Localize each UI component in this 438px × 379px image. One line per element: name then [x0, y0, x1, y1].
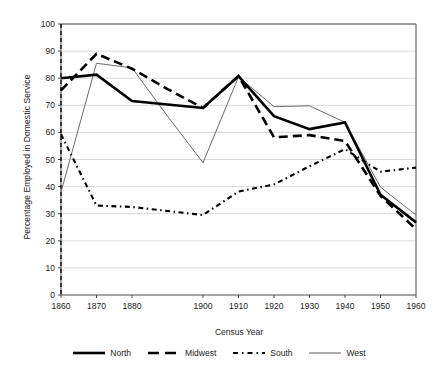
y-tick-label: 100: [29, 20, 55, 28]
series-line-midwest: [61, 54, 416, 229]
y-tick-label: 70: [29, 101, 55, 109]
y-tick-label: 20: [29, 237, 55, 245]
y-tick-label: 30: [29, 210, 55, 218]
legend-item-south[interactable]: South: [232, 348, 292, 358]
legend-label-midwest: Midwest: [185, 348, 216, 358]
legend-item-midwest[interactable]: Midwest: [147, 348, 216, 358]
x-tick-label: 1880: [112, 301, 152, 311]
legend-label-north: North: [110, 348, 131, 358]
x-tick-label: 1900: [183, 301, 223, 311]
x-tick-label: 1860: [41, 301, 81, 311]
y-tick-label: 40: [29, 183, 55, 191]
x-tick-label: 1870: [77, 301, 117, 311]
legend-swatch-midwest: [147, 348, 181, 358]
y-tick-label: 0: [29, 291, 55, 299]
series-line-west: [61, 63, 416, 215]
y-tick-label: 10: [29, 264, 55, 272]
x-tick-label: 1930: [290, 301, 330, 311]
legend-item-west[interactable]: West: [308, 348, 365, 358]
y-tick-label: 90: [29, 47, 55, 55]
legend-swatch-north: [72, 348, 106, 358]
series-line-north: [61, 75, 416, 223]
y-tick-label: 60: [29, 128, 55, 136]
legend-label-south: South: [270, 348, 292, 358]
legend-label-west: West: [346, 348, 365, 358]
chart-figure: Percentage Employed in Domestic Service …: [0, 0, 438, 379]
legend-swatch-south: [232, 348, 266, 358]
y-tick-label: 80: [29, 74, 55, 82]
legend-swatch-west: [308, 348, 342, 358]
x-axis-title: Census Year: [61, 327, 417, 337]
x-tick-label: 1940: [325, 301, 365, 311]
y-tick-label: 50: [29, 156, 55, 164]
legend-item-north[interactable]: North: [72, 348, 131, 358]
chart-legend: North Midwest South West: [0, 348, 438, 358]
x-tick-label: 1960: [396, 301, 436, 311]
x-tick-label: 1910: [219, 301, 259, 311]
plot-area: [0, 0, 438, 379]
x-tick-label: 1920: [254, 301, 294, 311]
x-tick-label: 1950: [361, 301, 401, 311]
series-line-south: [61, 134, 416, 215]
